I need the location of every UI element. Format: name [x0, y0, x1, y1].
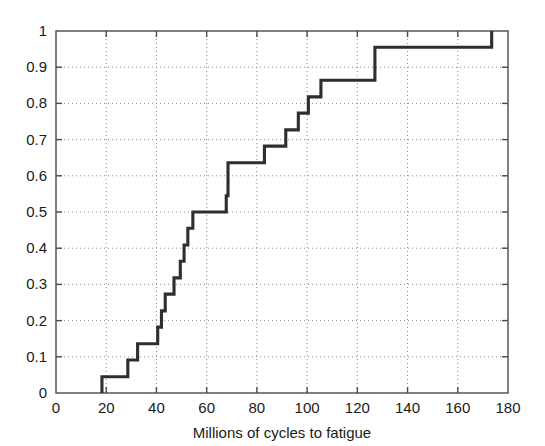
y-tick-label: 0.8	[26, 94, 47, 111]
x-axis-title: Millions of cycles to fatigue	[193, 424, 371, 441]
y-tick-label: 1	[39, 22, 47, 39]
y-tick-label: 0	[39, 384, 47, 401]
x-tick-label: 40	[148, 399, 165, 416]
y-tick-label: 0.4	[26, 239, 47, 256]
x-tick-label: 140	[395, 399, 420, 416]
ecdf-chart: 020406080100120140160180 00.10.20.30.40.…	[0, 0, 545, 446]
y-tick-label: 0.6	[26, 167, 47, 184]
x-tick-label: 60	[198, 399, 215, 416]
gridline-group	[56, 31, 508, 393]
y-tick-label: 0.7	[26, 131, 47, 148]
x-tick-label: 80	[249, 399, 266, 416]
y-tick-label-group: 00.10.20.30.40.50.60.70.80.91	[26, 22, 47, 401]
y-tick-label: 0.3	[26, 275, 47, 292]
figure-canvas: 020406080100120140160180 00.10.20.30.40.…	[0, 0, 545, 446]
x-tick-label: 0	[52, 399, 60, 416]
y-tick-label: 0.5	[26, 203, 47, 220]
x-tick-label: 180	[495, 399, 520, 416]
x-tick-label: 100	[295, 399, 320, 416]
x-tick-label: 20	[98, 399, 115, 416]
y-tick-label: 0.2	[26, 312, 47, 329]
y-tick-label: 0.9	[26, 58, 47, 75]
y-tick-label: 0.1	[26, 348, 47, 365]
x-tick-label: 160	[445, 399, 470, 416]
x-tick-label: 120	[345, 399, 370, 416]
x-tick-label-group: 020406080100120140160180	[52, 399, 521, 416]
